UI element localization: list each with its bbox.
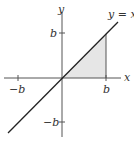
tick-label-x-neg-b: −b [9,83,25,96]
tick-label-y-b: b [50,27,57,40]
y-axis-label: y [57,3,65,16]
tick-label-y-neg-b: −b [43,116,59,129]
x-axis-label: x [124,71,131,84]
diagram-canvas: y x y = x b −b −b b [0,0,134,143]
tick-label-x-b: b [103,83,110,96]
line-label: y = x [107,8,134,21]
